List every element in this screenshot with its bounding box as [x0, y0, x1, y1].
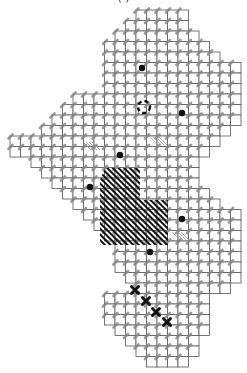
grid-cell	[210, 136, 221, 147]
grid-cell	[189, 346, 200, 357]
pattern-chart	[0, 0, 247, 373]
dot-marker	[179, 110, 185, 116]
dot-marker	[147, 249, 153, 255]
grid-cell	[199, 147, 210, 158]
dot-marker	[117, 152, 123, 158]
dot-marker	[179, 216, 185, 222]
grid-cell	[231, 115, 242, 126]
grid-cell	[220, 126, 231, 137]
grid-cell	[231, 273, 242, 284]
dot-marker	[87, 184, 93, 190]
grid-cell	[199, 325, 210, 336]
grid-cell	[220, 283, 231, 294]
dot-marker	[139, 65, 145, 71]
grid-cell	[178, 357, 189, 368]
